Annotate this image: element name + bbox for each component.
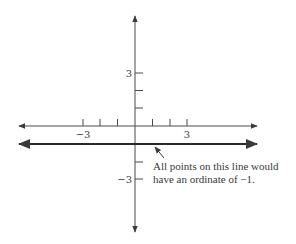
x-label-3: 3 bbox=[184, 129, 190, 140]
y-label-3: 3 bbox=[126, 68, 132, 79]
coordinate-plane-diagram: −3 3 3 −3 All points on this line would … bbox=[0, 0, 296, 244]
annotation-line-1: All points on this line would bbox=[153, 160, 279, 172]
annotation-line-2: have an ordinate of −1. bbox=[153, 173, 255, 185]
y-label-minus-3: −3 bbox=[117, 174, 132, 185]
x-label-minus-3: −3 bbox=[76, 129, 91, 140]
annotation-arrow bbox=[155, 147, 164, 158]
